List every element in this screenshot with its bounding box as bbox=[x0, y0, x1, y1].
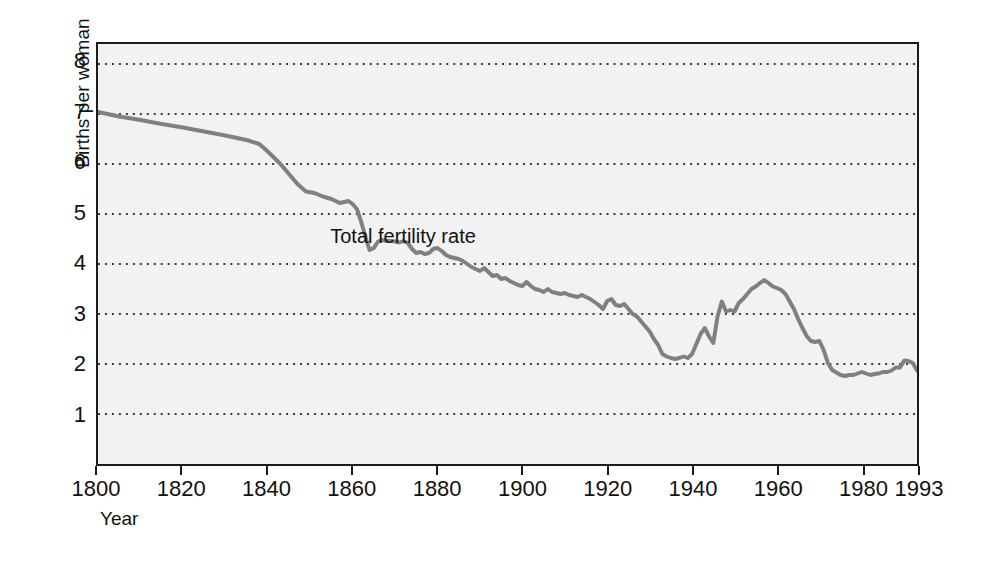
x-tick-label-1840: 1840 bbox=[242, 478, 291, 500]
y-tick-label-4: 4 bbox=[52, 252, 86, 274]
y-tick-label-3: 3 bbox=[52, 303, 86, 325]
x-tick-label-1993: 1993 bbox=[895, 478, 944, 500]
x-tick-label-1900: 1900 bbox=[498, 478, 547, 500]
x-axis-title: Year bbox=[100, 508, 138, 530]
x-tick-label-1940: 1940 bbox=[669, 478, 718, 500]
x-tick-label-1980: 1980 bbox=[839, 478, 888, 500]
x-tick-mark-1993 bbox=[918, 466, 920, 475]
x-tick-label-1880: 1880 bbox=[413, 478, 462, 500]
x-tick-label-1820: 1820 bbox=[157, 478, 206, 500]
y-tick-label-6: 6 bbox=[52, 151, 86, 173]
y-tick-label-1: 1 bbox=[52, 404, 86, 426]
x-tick-label-1800: 1800 bbox=[72, 478, 121, 500]
y-tick-label-8: 8 bbox=[52, 50, 86, 72]
y-tick-label-5: 5 bbox=[52, 202, 86, 224]
figure-root: Births per woman 12345678 Total fertilit… bbox=[0, 0, 984, 567]
x-tick-label-1860: 1860 bbox=[327, 478, 376, 500]
x-tick-mark-1920 bbox=[607, 466, 609, 475]
x-tick-mark-1840 bbox=[266, 466, 268, 475]
plot-svg bbox=[98, 44, 917, 464]
x-tick-mark-1800 bbox=[95, 466, 97, 475]
x-tick-mark-1960 bbox=[777, 466, 779, 475]
plot-area bbox=[96, 42, 919, 466]
x-tick-mark-1900 bbox=[521, 466, 523, 475]
x-tick-mark-1880 bbox=[436, 466, 438, 475]
x-tick-mark-1860 bbox=[351, 466, 353, 475]
x-tick-mark-1980 bbox=[863, 466, 865, 475]
series-annotation-label: Total fertility rate bbox=[330, 226, 476, 246]
x-tick-label-1920: 1920 bbox=[583, 478, 632, 500]
series-line-0 bbox=[98, 112, 917, 376]
x-tick-label-1960: 1960 bbox=[754, 478, 803, 500]
x-tick-mark-1820 bbox=[180, 466, 182, 475]
gridlines bbox=[98, 64, 917, 414]
series-group bbox=[98, 112, 917, 376]
y-tick-label-2: 2 bbox=[52, 353, 86, 375]
y-tick-label-7: 7 bbox=[52, 101, 86, 123]
x-tick-mark-1940 bbox=[692, 466, 694, 475]
